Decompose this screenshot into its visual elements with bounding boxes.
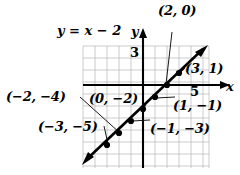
- point-marker: [104, 142, 110, 148]
- equation-label: y = x − 2: [57, 24, 121, 37]
- point-label-1-n1: (1, −1): [173, 99, 222, 112]
- point-label-n3-n5: (−3, −5): [38, 120, 98, 133]
- y-axis: [139, 28, 147, 168]
- y-axis-label: y: [131, 25, 139, 38]
- point-label-n1-n3: (−1, −3): [150, 122, 210, 135]
- point-marker: [176, 70, 182, 76]
- leader-n1-n3: [132, 120, 150, 121]
- point-label-n2-n4: (−2, −4): [6, 90, 66, 103]
- point-marker: [152, 94, 158, 100]
- point-marker: [116, 130, 122, 136]
- x-axis-label: x: [226, 80, 234, 93]
- point-label-0-n2: (0, −2): [89, 92, 138, 105]
- point-label-2-0: (2, 0): [158, 4, 196, 17]
- point-label-3-1: (3, 1): [185, 62, 223, 75]
- point-marker: [164, 82, 170, 88]
- y-tick-label-3: 3: [130, 46, 139, 59]
- x-tick-label-5: 5: [190, 85, 199, 98]
